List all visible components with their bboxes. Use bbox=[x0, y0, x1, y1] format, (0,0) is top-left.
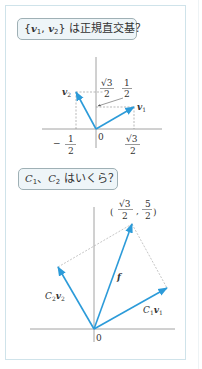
parallelogram-top-left bbox=[58, 224, 132, 267]
f-point-coordinates: ( √3 2 , 5 2 ) bbox=[110, 199, 157, 221]
x-tick-negative-half: − 1 2 bbox=[53, 134, 76, 156]
v2-vector bbox=[76, 92, 96, 129]
svg-text:2: 2 bbox=[122, 211, 128, 221]
origin-label-1: 0 bbox=[98, 132, 104, 142]
svg-text:5: 5 bbox=[145, 199, 151, 209]
svg-text:2: 2 bbox=[68, 146, 74, 156]
svg-text:−: − bbox=[53, 138, 61, 148]
diagram-1: v2 v1 0 √3 2 1 2 − 1 2 √3 2 bbox=[42, 57, 162, 156]
f-label: f bbox=[116, 272, 123, 282]
svg-text:2: 2 bbox=[104, 89, 110, 99]
svg-text:): ) bbox=[153, 207, 157, 217]
diagrams: v2 v1 0 √3 2 1 2 − 1 2 √3 2 bbox=[0, 0, 202, 369]
svg-text:1: 1 bbox=[124, 78, 130, 88]
f-vector bbox=[94, 224, 132, 329]
y-tick-sqrt3-over-2: √3 2 bbox=[100, 78, 114, 99]
v1-vector bbox=[96, 107, 134, 129]
c1v1-label: C1v1 bbox=[143, 305, 163, 316]
half-leader-arrow bbox=[98, 98, 123, 106]
origin-label-2: 0 bbox=[96, 333, 102, 343]
y-tick-one-half: 1 2 bbox=[122, 78, 132, 99]
parallelogram-top-right bbox=[132, 224, 167, 288]
svg-text:√3: √3 bbox=[126, 134, 138, 144]
svg-text:,: , bbox=[136, 206, 139, 216]
svg-text:√3: √3 bbox=[101, 78, 113, 88]
svg-text:(: ( bbox=[110, 207, 114, 217]
svg-text:√3: √3 bbox=[119, 199, 131, 209]
c2v2-label: C2v2 bbox=[45, 291, 65, 302]
v1-label: v1 bbox=[137, 102, 146, 113]
svg-text:2: 2 bbox=[124, 89, 130, 99]
svg-text:2: 2 bbox=[130, 146, 136, 156]
diagram-2: 0 f C2v2 C1v1 ( √3 2 , 5 2 ) bbox=[30, 199, 175, 343]
x-tick-sqrt3-over-2: √3 2 bbox=[125, 134, 140, 156]
v2-label: v2 bbox=[62, 87, 71, 98]
svg-text:1: 1 bbox=[68, 134, 74, 144]
svg-text:2: 2 bbox=[145, 211, 151, 221]
